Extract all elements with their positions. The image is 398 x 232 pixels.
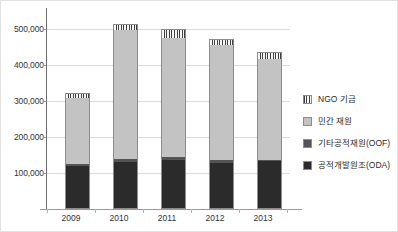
y-axis-tick-labels: 500,000 400,000 300,000 200,000 100,000 … (0, 0, 44, 232)
legend-label-oof: 기타공적재원(OOF) (318, 136, 390, 150)
bar-segment-2012-oda[interactable] (209, 163, 234, 209)
stacked-bar-chart-figure: 500,000 400,000 300,000 200,000 100,000 … (0, 0, 398, 232)
bar-segment-2010-oof[interactable] (113, 159, 138, 162)
bar-segment-2013-oda[interactable] (257, 161, 282, 209)
x-tick-label-2011: 2011 (143, 214, 191, 223)
x-tick-label-2010: 2010 (95, 214, 143, 223)
x-tick-label-2012: 2012 (191, 214, 239, 223)
y-tick-label-500000: 500,000 (0, 25, 44, 34)
bar-segment-2011-oda[interactable] (161, 160, 186, 209)
bar-segment-2012-oof[interactable] (209, 160, 234, 163)
ngo-hatch-swatch-icon (303, 95, 312, 104)
bar-segment-2010-ngo[interactable] (113, 24, 138, 29)
x-tick-mark-2 (143, 209, 144, 213)
bar-segment-2010-private[interactable] (113, 30, 138, 159)
y-tick-label-300000: 300,000 (0, 97, 44, 106)
legend-item-oof[interactable]: 기타공적재원(OOF) (303, 136, 398, 158)
bar-segment-2009-oda[interactable] (65, 166, 90, 209)
bar-segment-2011-oof[interactable] (161, 157, 186, 160)
bar-segment-2011-ngo[interactable] (161, 29, 186, 38)
x-tick-mark-1 (95, 209, 96, 213)
legend-label-oda: 공적개발원조(ODA) (318, 158, 390, 172)
bar-segment-2010-oda[interactable] (113, 162, 138, 210)
bar-2012[interactable] (209, 39, 234, 209)
y-tick-label-400000: 400,000 (0, 61, 44, 70)
x-tick-label-2009: 2009 (47, 214, 95, 223)
legend-label-ngo: NGO 기금 (318, 92, 356, 106)
plot-area (47, 18, 290, 209)
x-tick-mark-3 (191, 209, 192, 213)
legend-item-ngo[interactable]: NGO 기금 (303, 92, 398, 114)
oda-swatch-icon (303, 161, 312, 170)
bar-segment-2009-ngo[interactable] (65, 93, 90, 98)
x-tick-label-2013: 2013 (239, 214, 287, 223)
bar-segment-2012-private[interactable] (209, 45, 234, 160)
x-tick-mark-5 (287, 209, 288, 213)
private-swatch-icon (303, 117, 312, 126)
bar-segment-2013-oof[interactable] (257, 160, 282, 161)
figure-border-bottom (0, 231, 398, 232)
chart-legend: NGO 기금 민간 재원 기타공적재원(OOF) 공적개발원조(ODA) (303, 92, 398, 180)
bar-segment-2013-ngo[interactable] (257, 52, 282, 59)
figure-border-top (0, 0, 398, 1)
bar-segment-2009-oof[interactable] (65, 164, 90, 167)
x-axis-line (40, 209, 302, 210)
legend-label-private: 민간 재원 (318, 114, 352, 128)
bar-segment-2013-private[interactable] (257, 59, 282, 160)
x-tick-mark-4 (239, 209, 240, 213)
y-tick-label-200000: 200,000 (0, 133, 44, 142)
bar-segment-2012-ngo[interactable] (209, 39, 234, 45)
bar-2010[interactable] (113, 24, 138, 209)
bar-2013[interactable] (257, 52, 282, 209)
x-tick-mark-0 (47, 209, 48, 213)
legend-item-oda[interactable]: 공적개발원조(ODA) (303, 158, 398, 180)
bar-2009[interactable] (65, 93, 90, 209)
y-tick-label-100000: 100,000 (0, 169, 44, 178)
y-tick-label-zero: - (0, 205, 44, 214)
bar-segment-2009-private[interactable] (65, 98, 90, 164)
bar-segment-2011-private[interactable] (161, 38, 186, 157)
legend-item-private[interactable]: 민간 재원 (303, 114, 398, 136)
bar-2011[interactable] (161, 29, 186, 209)
oof-swatch-icon (303, 139, 312, 148)
